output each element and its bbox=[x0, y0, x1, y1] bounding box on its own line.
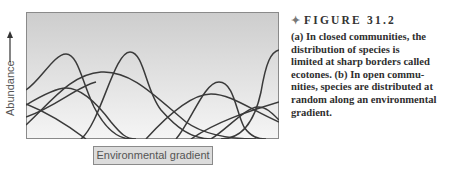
figure-heading: ✦FIGURE 31.2 bbox=[291, 13, 451, 28]
arrowhead-icon bbox=[7, 31, 13, 38]
figure-number: FIGURE 31.2 bbox=[304, 14, 396, 26]
y-axis-label-text: Abundance bbox=[4, 60, 16, 116]
diamond-marker-icon: ✦ bbox=[291, 14, 300, 26]
abundance-plot bbox=[26, 12, 279, 139]
y-axis-label: Abundance bbox=[2, 30, 18, 118]
caption-text: (a) In closed communities, the distribut… bbox=[291, 31, 451, 119]
x-axis-label: Environmental gradient bbox=[93, 146, 213, 165]
species-curves-graphic bbox=[26, 12, 279, 139]
figure-caption: ✦FIGURE 31.2 (a) In closed communities, … bbox=[291, 13, 451, 119]
